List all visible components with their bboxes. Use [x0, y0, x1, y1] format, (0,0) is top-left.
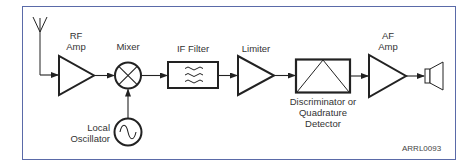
detector-box-icon — [296, 60, 350, 93]
filter-waves-icon — [168, 62, 218, 88]
speaker-icon — [425, 62, 443, 90]
discriminator-label-line1: Discriminator or — [283, 96, 363, 107]
rf-amp-triangle-icon — [59, 56, 94, 95]
af-amp-label-line2: Amp — [375, 41, 401, 52]
limiter-triangle-icon — [238, 56, 274, 95]
discriminator-label-line2: Quadrature — [283, 107, 363, 118]
rf-amp-label-line2: Amp — [63, 41, 89, 52]
local-osc-label-line1: Local — [62, 122, 110, 133]
af-amp-label: AF Amp — [375, 30, 401, 52]
mixer-x-circle-icon — [115, 63, 141, 89]
figure-code: ARRL0093 — [402, 144, 441, 153]
limiter-label: Limiter — [231, 43, 281, 54]
local-oscillator-label: Local Oscillator — [62, 122, 110, 144]
af-amp-triangle-icon — [369, 55, 406, 97]
local-osc-label-line2: Oscillator — [62, 133, 110, 144]
af-amp-label-line1: AF — [375, 30, 401, 41]
discriminator-label-line3: Detector — [283, 118, 363, 129]
sine-wave-circle-icon — [115, 119, 142, 146]
discriminator-label: Discriminator or Quadrature Detector — [283, 96, 363, 129]
rf-amp-label: RF Amp — [63, 30, 89, 52]
if-filter-label: IF Filter — [163, 43, 223, 54]
antenna-icon — [33, 17, 47, 75]
mixer-label: Mixer — [108, 41, 148, 52]
rf-amp-label-line1: RF — [63, 30, 89, 41]
